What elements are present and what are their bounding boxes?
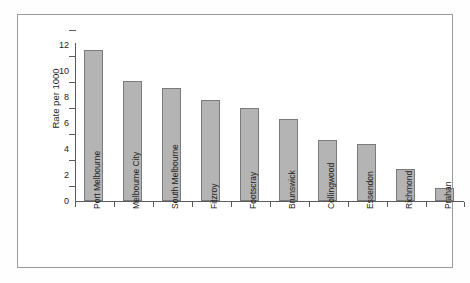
x-label-richmond: Richmond	[405, 171, 414, 209]
x-label-footscray: Footscray	[249, 172, 258, 209]
y-tick-label-8: 8	[47, 93, 69, 102]
x-tick-mark-5	[270, 202, 271, 207]
x-tick-mark-0	[75, 202, 76, 207]
x-label-south-melbourne: South Melbourne	[171, 144, 180, 209]
y-tick-label-0: 0	[47, 197, 69, 206]
y-tick-group-10: 10	[40, 67, 69, 76]
y-tick-group-6: 6	[40, 119, 69, 128]
x-tick-mark-7	[348, 202, 349, 207]
figure-frame: Rate per 1000 12 10 8 6 4 2 0	[17, 14, 453, 268]
y-tick-group-0: 0	[40, 197, 69, 206]
y-tick-label-12: 12	[47, 41, 69, 50]
y-tick-group-8: 8	[40, 93, 69, 102]
x-tick-mark-8	[387, 202, 388, 207]
x-tick-mark-3	[192, 202, 193, 207]
y-tick-mark-12	[69, 30, 76, 31]
chart-figure: Rate per 1000 12 10 8 6 4 2 0	[0, 0, 470, 283]
y-tick-label-6: 6	[47, 119, 69, 128]
x-label-fitzroy: Fitzroy	[210, 184, 219, 210]
y-tick-group-12: 12	[40, 41, 69, 50]
x-tick-mark-6	[309, 202, 310, 207]
y-tick-group-2: 2	[40, 171, 69, 180]
x-tick-mark-10	[464, 202, 465, 207]
x-tick-mark-2	[153, 202, 154, 207]
x-tick-mark-9	[426, 202, 427, 207]
x-label-melbourne-city: Melbourne City	[132, 152, 141, 209]
x-label-brunswick: Brunswick	[288, 170, 297, 209]
x-label-prahan: Prahan	[444, 182, 453, 209]
x-label-port-melbourne: Port Melbourne	[93, 151, 102, 209]
y-tick-label-4: 4	[47, 145, 69, 154]
x-label-collingwood: Collingwood	[327, 163, 336, 209]
x-label-essendon: Essendon	[366, 171, 375, 209]
x-tick-mark-4	[231, 202, 232, 207]
y-tick-label-10: 10	[47, 67, 69, 76]
x-tick-mark-1	[114, 202, 115, 207]
y-tick-group-4: 4	[40, 145, 69, 154]
y-tick-label-2: 2	[47, 171, 69, 180]
